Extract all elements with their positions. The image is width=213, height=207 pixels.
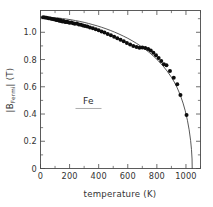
y-axis-title: |BFermi| (T)	[5, 68, 16, 113]
data-points-series	[41, 15, 188, 117]
x-axis-tick-labels: 02004006008001000	[38, 171, 197, 181]
y-axis-title-group: |BFermi| (T)	[5, 68, 16, 113]
data-point	[159, 59, 163, 63]
y-tick-label: 0.6	[23, 82, 37, 92]
y-tick-label: 1.0	[23, 27, 37, 37]
y-axis-title-subscript: Fermi	[10, 86, 16, 103]
x-tick-label: 600	[120, 171, 136, 181]
data-point	[157, 56, 161, 60]
data-point	[172, 76, 176, 80]
y-tick-label: 0.8	[23, 55, 37, 65]
data-point	[175, 82, 179, 86]
x-tick-label: 800	[149, 171, 165, 181]
axis-ticks	[41, 11, 201, 169]
data-point	[164, 63, 168, 67]
y-tick-label: 0.2	[23, 136, 37, 146]
y-tick-label: 0.4	[23, 109, 37, 119]
axes-box	[41, 11, 201, 169]
figure-container: 02004006008001000 00.20.40.60.81.0 Fe te…	[0, 0, 213, 207]
data-point	[178, 93, 182, 97]
x-tick-label: 400	[91, 171, 107, 181]
y-tick-label: 0	[32, 164, 37, 174]
x-tick-label: 200	[61, 171, 77, 181]
x-tick-label: 1000	[175, 171, 197, 181]
y-axis-tick-labels: 00.20.40.60.81.0	[23, 27, 37, 173]
y-axis-title-suffix: | (T)	[5, 68, 15, 87]
sample-label-text: Fe	[83, 96, 94, 106]
data-point	[185, 113, 189, 117]
magnetization-vs-temperature-chart: 02004006008001000 00.20.40.60.81.0 Fe te…	[0, 0, 213, 207]
x-tick-label: 0	[38, 171, 43, 181]
y-axis-title-prefix: |B	[5, 103, 15, 112]
plot-frame	[41, 11, 201, 169]
sample-annotation: Fe	[76, 96, 102, 108]
x-axis-title: temperature (K)	[84, 189, 157, 199]
data-point	[168, 69, 172, 73]
